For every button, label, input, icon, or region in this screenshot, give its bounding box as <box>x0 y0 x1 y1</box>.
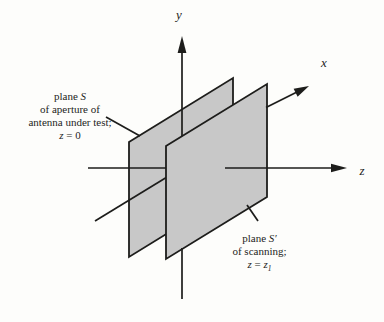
x-axis-front-segment <box>266 92 297 108</box>
y-axis-arrowhead <box>178 36 187 53</box>
x-axis-label: x <box>315 55 333 70</box>
near-field-scanning-diagram: y x z plane S of aperture of antenna und… <box>0 0 384 322</box>
diagram-canvas <box>0 0 384 322</box>
scan-plane-caption: plane S′ of scanning; z = z1 <box>207 232 312 271</box>
caption-line: plane S <box>14 90 126 103</box>
caption-line: of scanning; <box>207 245 312 258</box>
caption-line: z = z1 <box>207 258 312 271</box>
caption-line: plane S′ <box>207 232 312 245</box>
scan-plane-leader-line <box>247 205 258 221</box>
y-axis-label: y <box>170 7 188 22</box>
caption-line: z = 0 <box>14 129 126 142</box>
z-axis-arrowhead <box>331 164 347 172</box>
caption-line: antenna under test; <box>14 116 126 129</box>
aperture-plane-caption: plane S of aperture of antenna under tes… <box>14 90 126 142</box>
caption-line: of aperture of <box>14 103 126 116</box>
x-axis-arrowhead <box>294 86 309 97</box>
z-axis-label: z <box>353 163 371 178</box>
